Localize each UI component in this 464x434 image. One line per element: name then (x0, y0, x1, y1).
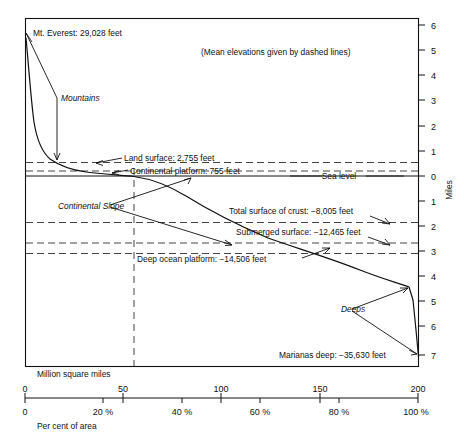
annotation-mean-elevations-note: (Mean elevations given by dashed lines) (201, 47, 351, 57)
y-tick-label-3-down: 3 (431, 247, 436, 257)
chart-svg: 6 5 4 3 2 1 0 1 2 3 4 5 6 7 Miles Millio… (0, 0, 464, 434)
x-top-tick-label-150: 150 (312, 384, 327, 394)
y-tick-label-4-up: 4 (431, 71, 436, 81)
y-tick-label-5-down: 5 (431, 297, 436, 307)
y-tick-label-2-down: 2 (431, 222, 436, 232)
y-tick-label-1-down: 1 (431, 197, 436, 207)
sea-level-label: Sea level (322, 171, 357, 181)
y-tick-label-3-up: 3 (431, 96, 436, 106)
annotation-land-surface: Land surface: 2,755 feet (124, 153, 215, 163)
y-tick-label-6-up: 6 (431, 21, 436, 31)
x-top-tick-label-50: 50 (118, 384, 128, 394)
annotation-continental-platform: Continental platform: 755 feet (130, 166, 241, 176)
x-top-tick-label-100: 100 (213, 384, 228, 394)
x-bottom-tick-label-0: 0 (22, 407, 27, 417)
leader-deeps-lower-arrowhead (409, 350, 417, 355)
plot-frame (26, 19, 419, 367)
annotation-mountains: Mountains (61, 93, 100, 103)
leader-submerged-surface-arrowhead (382, 239, 390, 245)
annotation-continental-slope: Continental Slope (58, 201, 124, 211)
annotation-deep-ocean-platform: Deep ocean platform: −14,506 feet (137, 254, 267, 264)
x-bottom-tick-label-100: 100 % (403, 407, 429, 417)
y-tick-label-1-up: 1 (431, 147, 436, 157)
annotation-total-surface-of-crust: Total surface of crust: −8,005 feet (229, 206, 354, 216)
y-tick-label-5-up: 5 (431, 46, 436, 56)
x-top-tick-label-200: 200 (410, 384, 425, 394)
hypsographic-curve-figure: 6 5 4 3 2 1 0 1 2 3 4 5 6 7 Miles Millio… (0, 0, 464, 434)
annotation-submerged-surface: Submerged surface: −12,465 feet (236, 227, 361, 237)
x-top-tick-label-0: 0 (22, 384, 27, 394)
x-axis-bottom-title: Per cent of area (37, 421, 97, 431)
y-tick-label-2-up: 2 (431, 122, 436, 132)
y-tick-label-6-down: 6 (431, 322, 436, 332)
y-axis-title: Miles (444, 180, 454, 200)
annotation-everest: Mt. Everest: 29,028 feet (33, 28, 123, 38)
annotation-deeps: Deeps (341, 304, 366, 314)
leader-deeps-lower (352, 311, 417, 354)
x-bottom-tick-label-20: 20 % (93, 407, 114, 417)
annotation-marianas-deep: Marianas deep: −35,630 feet (279, 350, 387, 360)
x-bottom-tick-label-80: 80 % (329, 407, 350, 417)
x-bottom-tick-label-40: 40 % (172, 407, 193, 417)
leader-continental-slope-upper-arrowhead (184, 178, 191, 184)
y-tick-label-4-down: 4 (431, 272, 436, 282)
x-bottom-tick-label-60: 60 % (250, 407, 271, 417)
leader-land-surface-arrowhead (96, 161, 103, 166)
y-tick-label-7-down: 7 (431, 351, 436, 361)
x-axis-top-title: Million square miles (37, 369, 111, 379)
y-tick-label-0: 0 (431, 172, 436, 182)
